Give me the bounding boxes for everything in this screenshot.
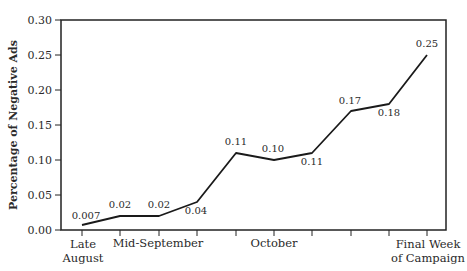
x-label-final-week: Final Week [396,237,462,251]
y-tick-labels: 0.00 0.05 0.10 0.15 0.20 0.25 0.30 [28,14,53,237]
data-label: 0.17 [339,95,361,106]
y-tick-label: 0.15 [28,119,53,132]
data-label: 0.02 [109,199,131,210]
y-tick-label: 0.00 [28,224,53,237]
data-label: 0.25 [416,38,438,49]
y-axis-label: Percentage of Negative Ads [7,40,20,210]
y-axis [55,20,61,230]
x-label-mid-september: Mid-September [113,236,204,250]
x-label-late-august: Late [70,237,96,251]
series-line [82,55,427,225]
x-label-late-august: August [61,251,103,265]
line-chart: Percentage of Negative Ads 0.00 0.05 0.1… [0,0,467,271]
y-tick-label: 0.05 [28,189,53,202]
data-labels: 0.007 0.02 0.02 0.04 0.11 0.10 0.11 0.17… [72,38,438,221]
y-tick-label: 0.30 [28,14,53,27]
data-label: 0.11 [301,156,323,167]
y-tick-label: 0.25 [28,49,53,62]
data-label: 0.04 [185,205,207,216]
y-tick-label: 0.20 [28,84,53,97]
data-label: 0.007 [72,210,101,221]
data-label: 0.10 [262,143,284,154]
x-label-final-week: of Campaign [391,251,466,265]
data-label: 0.18 [378,107,400,118]
data-label: 0.11 [225,136,247,147]
x-label-october: October [250,236,298,250]
x-category-labels: Late August Mid-September October Final … [61,236,465,265]
data-label: 0.02 [148,199,170,210]
y-tick-label: 0.10 [28,154,53,167]
